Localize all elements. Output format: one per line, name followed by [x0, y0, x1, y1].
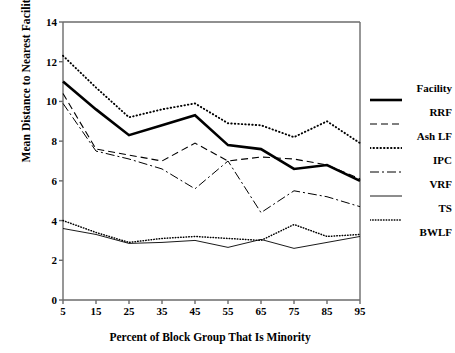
x-tick-label: 15: [83, 306, 109, 316]
chart-legend: Facility RRF Ash LF IPC VRF TS BWLF: [368, 82, 454, 250]
legend-label-ts: TS: [368, 202, 452, 214]
x-tick-label: 85: [314, 306, 340, 316]
y-tick-label: 4: [31, 216, 57, 226]
legend-label-ipc: IPC: [368, 154, 452, 166]
legend-label-rrf: RRF: [368, 106, 452, 118]
legend-entry-ts[interactable]: TS: [368, 202, 454, 226]
legend-label-vrf: VRF: [368, 178, 452, 190]
series-line-rrf: [63, 82, 360, 181]
x-tick-label: 55: [215, 306, 241, 316]
legend-title: Facility: [368, 82, 452, 94]
x-tick-label: 95: [347, 306, 373, 316]
x-tick-label: 45: [182, 306, 208, 316]
legend-entry-vrf[interactable]: VRF: [368, 178, 454, 202]
x-tick-label: 35: [149, 306, 175, 316]
legend-entry-rrf[interactable]: RRF: [368, 106, 454, 130]
legend-entry-ipc[interactable]: IPC: [368, 154, 454, 178]
chart-figure: Mean Distance to Nearest Facility Percen…: [0, 0, 455, 353]
x-tick-label: 5: [50, 306, 76, 316]
legend-key-ashlf: [370, 121, 402, 125]
x-tick-label: 75: [281, 306, 307, 316]
x-tick-label: 65: [248, 306, 274, 316]
x-axis-title: Percent of Block Group That Is Minority: [55, 331, 365, 343]
legend-label-bwlf: BWLF: [368, 226, 452, 238]
y-tick-label: 8: [31, 136, 57, 146]
series-line-bwlf: [63, 221, 360, 243]
legend-key-rrf: [370, 97, 402, 101]
y-tick-label: 2: [31, 255, 57, 265]
y-tick-label: 6: [31, 176, 57, 186]
legend-key-ts: [370, 193, 402, 197]
legend-entry-bwlf[interactable]: BWLF: [368, 226, 454, 250]
series-lines: [63, 56, 360, 249]
axis-lines: [59, 22, 360, 304]
legend-key-bwlf: [370, 217, 402, 221]
legend-header-row: Facility: [368, 82, 454, 106]
y-tick-label: 0: [31, 295, 57, 305]
y-tick-label: 14: [31, 17, 57, 27]
y-tick-label: 10: [31, 96, 57, 106]
legend-key-ipc: [370, 145, 402, 149]
y-tick-label: 12: [31, 57, 57, 67]
legend-entry-ashlf[interactable]: Ash LF: [368, 130, 454, 154]
x-tick-label: 25: [116, 306, 142, 316]
series-line-ts: [63, 229, 360, 249]
legend-label-ashlf: Ash LF: [368, 130, 452, 142]
legend-key-vrf: [370, 169, 402, 173]
